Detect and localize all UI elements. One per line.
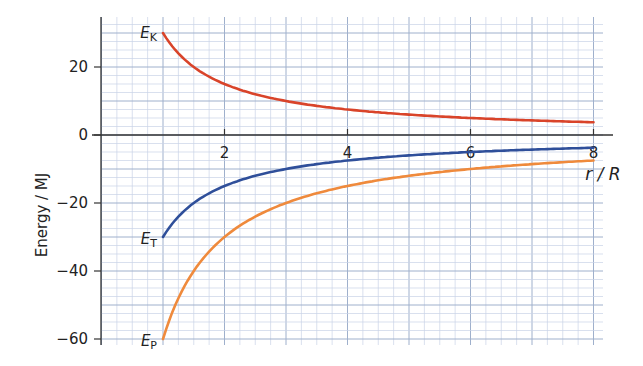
energy-chart: 200−20−40−602468 EKETEP Energy / MJ r / …	[0, 0, 643, 366]
series-labels: EKETEP	[140, 24, 157, 352]
series-label-e-p: EP	[141, 332, 157, 352]
y-tick-label: −40	[56, 262, 88, 280]
y-tick-label: 20	[69, 58, 88, 76]
axes	[92, 17, 613, 345]
grid	[101, 17, 603, 345]
x-axis-label: r / R	[585, 164, 620, 184]
x-tick-label: 2	[220, 144, 230, 162]
y-tick-label: −20	[56, 194, 88, 212]
y-tick-label: 0	[78, 126, 88, 144]
series-label-e-t: ET	[141, 230, 157, 250]
series-label-e-k: EK	[140, 24, 157, 44]
y-tick-label: −60	[56, 330, 88, 348]
y-axis-label: Energy / MJ	[33, 173, 51, 257]
